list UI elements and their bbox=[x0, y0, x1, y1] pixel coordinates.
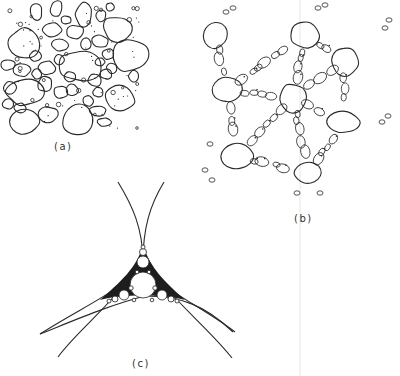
packed-circle bbox=[140, 249, 147, 256]
panel-c-label: (c) bbox=[132, 358, 150, 369]
packed-circle bbox=[150, 298, 154, 302]
fine-dot bbox=[94, 78, 95, 79]
large-particle bbox=[212, 77, 242, 101]
fine-dot bbox=[46, 106, 47, 107]
chain-particle bbox=[320, 43, 332, 54]
fine-dot bbox=[256, 67, 258, 69]
fine-dot bbox=[44, 121, 45, 122]
fine-dot bbox=[264, 158, 266, 160]
panel-a-dense-packing bbox=[1, 1, 149, 135]
fine-dot bbox=[23, 45, 24, 46]
packed-circle bbox=[175, 299, 179, 303]
particle bbox=[75, 2, 91, 27]
fine-dot bbox=[244, 76, 246, 78]
chain-particle bbox=[202, 168, 208, 172]
packed-circle bbox=[157, 290, 167, 300]
chain-particle bbox=[209, 178, 215, 182]
packed-circle bbox=[168, 296, 174, 302]
panel-b-particle-network bbox=[202, 3, 392, 195]
fine-dot bbox=[132, 51, 133, 52]
chain-particle bbox=[207, 142, 213, 146]
particle bbox=[42, 23, 62, 37]
small-particle bbox=[8, 9, 12, 13]
fine-dot bbox=[86, 13, 87, 14]
chain-particle bbox=[341, 83, 349, 95]
fine-dot bbox=[117, 128, 118, 129]
fine-dot bbox=[126, 75, 127, 76]
fine-dot bbox=[322, 108, 324, 110]
fine-dot bbox=[38, 29, 39, 30]
fine-dot bbox=[127, 95, 128, 96]
chain-particle bbox=[245, 134, 259, 148]
small-particle bbox=[132, 7, 135, 10]
chain-particle bbox=[223, 10, 229, 14]
small-particle bbox=[107, 49, 110, 52]
panel-b-label: (b) bbox=[294, 213, 313, 224]
chain-particle bbox=[233, 72, 250, 87]
panel-a-label: (a) bbox=[54, 141, 72, 152]
fine-dot bbox=[20, 62, 21, 63]
fine-dot bbox=[234, 117, 236, 119]
chain-particle bbox=[265, 92, 277, 101]
large-particle bbox=[221, 143, 254, 168]
fine-dot bbox=[30, 30, 31, 31]
particle bbox=[13, 64, 31, 77]
chain-particle bbox=[253, 63, 263, 73]
packed-circle bbox=[112, 296, 118, 302]
chain-particle bbox=[276, 44, 289, 56]
bottom-circle-arc bbox=[40, 296, 233, 334]
fine-dot bbox=[101, 92, 102, 93]
fine-dot bbox=[345, 74, 347, 76]
particle bbox=[38, 107, 58, 123]
chain-particle bbox=[382, 26, 388, 30]
fine-dot bbox=[25, 22, 26, 23]
particle bbox=[29, 51, 41, 62]
particle bbox=[3, 82, 16, 95]
fine-dot bbox=[31, 43, 32, 44]
particle bbox=[113, 40, 149, 72]
particle bbox=[97, 118, 111, 126]
fine-dot bbox=[52, 20, 53, 21]
chain-particle bbox=[317, 191, 323, 195]
chain-particle bbox=[386, 18, 392, 22]
chain-particle bbox=[270, 50, 281, 60]
small-particle bbox=[136, 127, 139, 130]
chain-particle bbox=[327, 133, 339, 146]
fine-dot bbox=[135, 90, 136, 91]
chain-particle bbox=[254, 155, 270, 167]
chain-particle bbox=[294, 191, 300, 195]
particle bbox=[106, 3, 114, 11]
particle bbox=[100, 69, 111, 79]
particle bbox=[89, 106, 106, 116]
small-particle bbox=[82, 78, 86, 82]
packed-circle bbox=[147, 270, 151, 274]
fine-dot bbox=[18, 81, 19, 82]
small-particle bbox=[135, 7, 139, 11]
fine-dot bbox=[255, 137, 257, 139]
packed-circle bbox=[107, 299, 111, 303]
fine-dot bbox=[16, 23, 17, 24]
fine-dot bbox=[256, 89, 258, 91]
particle bbox=[32, 69, 42, 79]
chain-particle bbox=[221, 67, 227, 75]
large-particle bbox=[291, 22, 320, 48]
packed-circle bbox=[141, 245, 145, 249]
particle bbox=[92, 35, 108, 47]
chain-particle bbox=[227, 121, 238, 136]
fine-dot bbox=[78, 38, 79, 39]
fine-dot bbox=[123, 96, 124, 97]
packed-circle bbox=[153, 286, 157, 290]
packed-circle bbox=[137, 256, 149, 268]
large-particle bbox=[327, 111, 360, 132]
chain-particle bbox=[296, 135, 307, 149]
large-particle bbox=[332, 48, 359, 76]
fine-dot bbox=[91, 56, 92, 57]
small-particle bbox=[31, 98, 34, 101]
particle bbox=[14, 103, 26, 113]
particle bbox=[50, 1, 62, 17]
fine-dot bbox=[300, 74, 302, 76]
fine-dot bbox=[91, 25, 92, 26]
chain-particle bbox=[230, 6, 236, 10]
chain-particle bbox=[213, 51, 225, 66]
fine-dot bbox=[74, 100, 75, 101]
